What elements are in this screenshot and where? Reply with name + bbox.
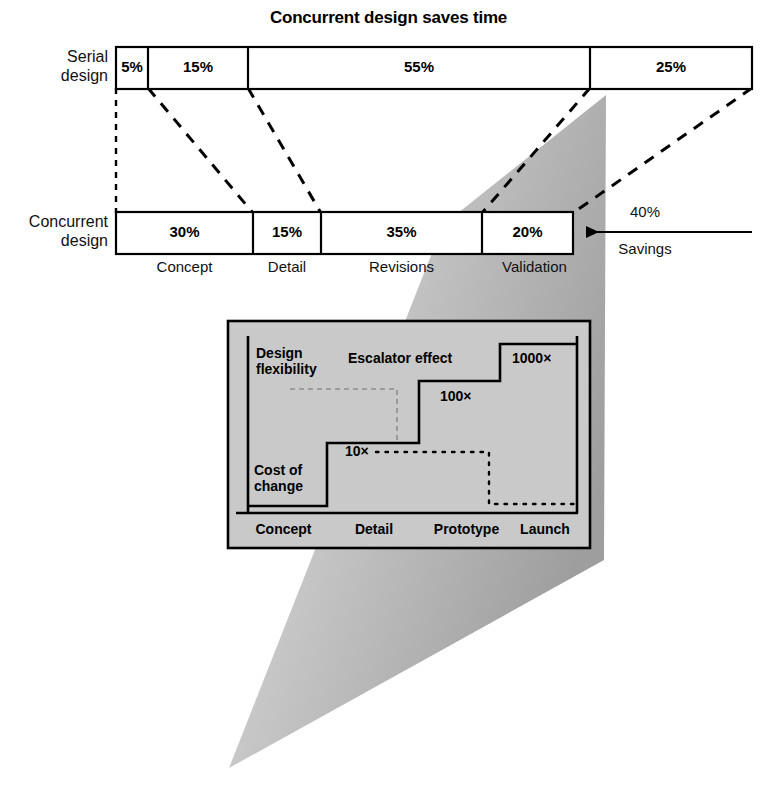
concurrent-segment-value-1: 30% bbox=[116, 223, 253, 240]
inset-xaxis-concept: Concept bbox=[236, 521, 331, 537]
inset-ylabel-bottom-line2: change bbox=[254, 478, 364, 494]
inset-ylabel-bottom: Cost of change bbox=[254, 462, 364, 494]
connector-2 bbox=[248, 88, 321, 213]
serial-segment-value-2: 15% bbox=[148, 58, 248, 75]
inset-annotation-escalator: Escalator effect bbox=[348, 350, 518, 366]
concurrent-segment-value-4: 20% bbox=[482, 223, 573, 240]
serial-row-label-line2: design bbox=[10, 66, 108, 85]
phase-label-detail: Detail bbox=[253, 258, 321, 275]
inset-xaxis-prototype: Prototype bbox=[414, 521, 519, 537]
inset-xaxis-launch: Launch bbox=[505, 521, 585, 537]
phase-label-validation: Validation bbox=[482, 258, 587, 275]
inset-step-label-1000x: 1000× bbox=[512, 350, 582, 366]
diagram-graphics bbox=[0, 0, 777, 785]
concurrent-row-label: Concurrent design bbox=[0, 212, 108, 250]
serial-row-label-line1: Serial bbox=[10, 47, 108, 66]
serial-row-label: Serial design bbox=[10, 47, 108, 85]
serial-segment-value-3: 55% bbox=[248, 58, 590, 75]
inset-ylabel-bottom-line1: Cost of bbox=[254, 462, 364, 478]
concurrent-segment-value-3: 35% bbox=[321, 223, 482, 240]
concurrent-row-label-line2: design bbox=[0, 231, 108, 250]
inset-step-label-100x: 100× bbox=[440, 388, 500, 404]
inset-step-label-10x: 10× bbox=[345, 443, 395, 459]
inset-xaxis-detail: Detail bbox=[334, 521, 414, 537]
connector-1 bbox=[148, 88, 253, 213]
serial-segment-value-4: 25% bbox=[590, 58, 752, 75]
phase-label-revisions: Revisions bbox=[321, 258, 482, 275]
serial-segment-value-1: 5% bbox=[116, 58, 148, 75]
savings-word: Savings bbox=[600, 240, 690, 257]
diagram-canvas: Concurrent design saves time bbox=[0, 0, 777, 785]
savings-amount: 40% bbox=[600, 203, 690, 220]
concurrent-segment-value-2: 15% bbox=[253, 223, 321, 240]
concurrent-row-label-line1: Concurrent bbox=[0, 212, 108, 231]
phase-label-concept: Concept bbox=[116, 258, 253, 275]
